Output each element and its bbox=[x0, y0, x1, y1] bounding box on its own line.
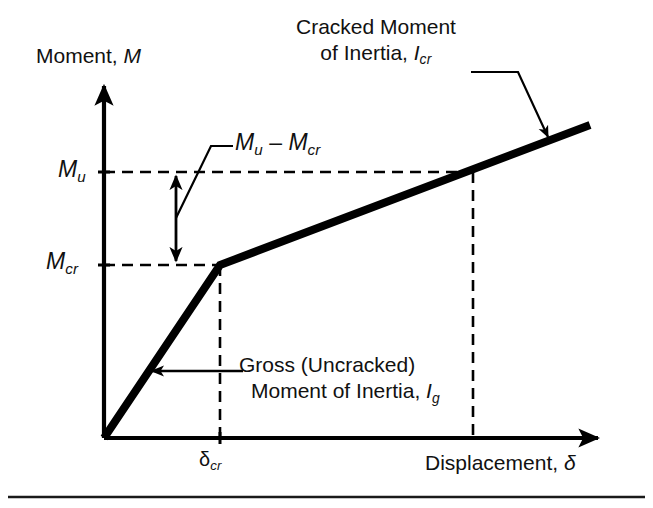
x-tick-label-delta-cr: δcr bbox=[199, 448, 222, 470]
annotation-moment-difference: Mu – Mcr bbox=[235, 130, 321, 156]
moment-difference-leader bbox=[176, 146, 233, 218]
x-tick-label-delta-cr-sub: cr bbox=[210, 458, 221, 473]
y-tick-label-mcr: Mcr bbox=[46, 249, 78, 275]
annotation-gross-inertia-line1: Gross (Uncracked) bbox=[239, 353, 415, 376]
moment-difference-leader-line bbox=[176, 146, 233, 218]
annotation-moment-difference-right: M bbox=[288, 129, 307, 155]
annotation-gross-inertia: Gross (Uncracked) Moment of Inertia, Ig bbox=[239, 352, 440, 405]
annotation-cracked-inertia-line2-prefix: of Inertia, bbox=[320, 41, 413, 64]
y-tick-label-mu-sub: u bbox=[77, 168, 86, 185]
x-tick-label-delta-cr-base: δ bbox=[199, 448, 210, 470]
y-tick-label-mcr-base: M bbox=[46, 248, 65, 274]
annotation-gross-inertia-line2-prefix: Moment of Inertia, bbox=[251, 379, 426, 402]
cracked-inertia-leader-line bbox=[471, 72, 548, 137]
annotation-moment-difference-left: M bbox=[235, 129, 254, 155]
annotation-cracked-inertia: Cracked Moment of Inertia, Icr bbox=[296, 14, 456, 66]
x-axis-title-symbol: δ bbox=[564, 451, 576, 474]
annotation-gross-inertia-sub: g bbox=[432, 390, 440, 406]
figure-container: Moment, M Displacement, δ Mu Mcr δcr Mu … bbox=[0, 0, 653, 508]
y-axis-title-symbol: M bbox=[124, 44, 142, 67]
moment-displacement-diagram bbox=[0, 0, 653, 508]
annotation-moment-difference-operator: – bbox=[263, 129, 289, 155]
annotation-gross-inertia-line2: Moment of Inertia, Ig bbox=[239, 378, 440, 404]
x-axis-title-prefix: Displacement, bbox=[425, 451, 564, 474]
annotation-cracked-inertia-symbol: I bbox=[414, 41, 420, 64]
axis-ticks bbox=[98, 172, 220, 444]
cracked-inertia-leader bbox=[471, 72, 548, 137]
y-tick-label-mu-base: M bbox=[58, 156, 77, 182]
y-axis-title: Moment, M bbox=[36, 44, 141, 68]
y-tick-label-mu: Mu bbox=[58, 157, 86, 183]
y-tick-label-mcr-sub: cr bbox=[65, 260, 78, 277]
annotation-cracked-inertia-sub: cr bbox=[420, 51, 432, 67]
y-axis-title-prefix: Moment, bbox=[36, 44, 124, 67]
annotation-moment-difference-right-sub: cr bbox=[308, 141, 321, 158]
x-axis-title: Displacement, δ bbox=[425, 451, 576, 475]
annotation-moment-difference-left-sub: u bbox=[254, 141, 263, 158]
annotation-cracked-inertia-line1: Cracked Moment bbox=[296, 15, 456, 38]
